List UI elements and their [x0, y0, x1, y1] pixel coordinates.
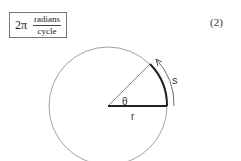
angle-label: θ: [122, 96, 128, 107]
arc-length-label: s: [172, 74, 178, 86]
radius-label: r: [131, 111, 135, 122]
circle-diagram: θ r s: [0, 0, 241, 161]
circle: [49, 47, 167, 161]
radial-line: [108, 64, 150, 106]
